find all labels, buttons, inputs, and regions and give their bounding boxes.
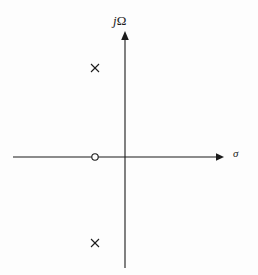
pole-marker-upper bbox=[91, 64, 99, 72]
pole-zero-plot bbox=[0, 0, 258, 275]
real-axis bbox=[13, 153, 224, 161]
pole-marker-lower bbox=[91, 239, 99, 247]
real-axis-label: σ bbox=[233, 148, 238, 159]
imaginary-axis-label-omega: Ω bbox=[117, 13, 127, 28]
zero-marker-origin-left bbox=[92, 154, 98, 160]
imaginary-axis-label: jΩ bbox=[113, 14, 126, 27]
imaginary-axis-arrowhead-icon bbox=[121, 31, 129, 40]
pole-zero-figure: jΩ σ bbox=[0, 0, 258, 275]
real-axis-arrowhead-icon bbox=[216, 153, 224, 161]
imaginary-axis bbox=[121, 31, 129, 268]
